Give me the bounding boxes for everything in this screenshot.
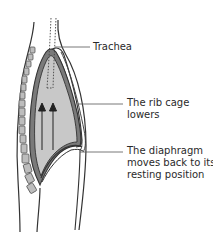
exhalation-diagram: Trachea The rib cage lowers The diaphrag…	[0, 0, 213, 238]
diaphragm-label-line: The diaphragm	[127, 145, 213, 157]
diaphragm-label: The diaphragm moves back to its resting …	[127, 145, 213, 181]
diaphragm-label-line: resting position	[127, 169, 213, 181]
rib-cage-label-line: The rib cage	[127, 97, 189, 109]
spine-inner-line	[37, 188, 40, 232]
rib-cage-label: The rib cage lowers	[127, 97, 189, 121]
trachea-label: Trachea	[93, 41, 132, 53]
trachea-label-line: Trachea	[93, 41, 132, 53]
rib-cage-label-line: lowers	[127, 109, 189, 121]
abdomen-line	[75, 150, 80, 230]
diaphragm-label-line: moves back to its	[127, 157, 213, 169]
